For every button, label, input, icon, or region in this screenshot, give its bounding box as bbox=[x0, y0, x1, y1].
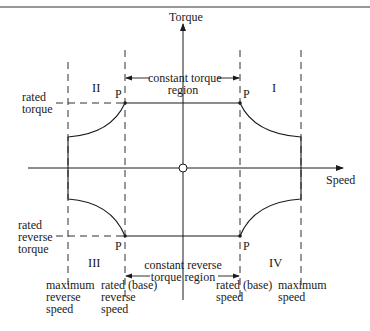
rated-torque-label-2: torque bbox=[22, 103, 53, 116]
quadrant-ii: II bbox=[92, 82, 100, 95]
base-speed-label-2: speed bbox=[216, 291, 243, 304]
quadrant-iv: IV bbox=[269, 257, 282, 270]
origin-circle bbox=[179, 164, 187, 172]
rated-reverse-label-3: torque bbox=[18, 243, 49, 256]
point-p-i: P bbox=[243, 88, 250, 101]
point-p-iv: P bbox=[243, 240, 250, 253]
max-reverse-label-3: speed bbox=[46, 303, 73, 316]
max-speed-label-2: speed bbox=[278, 291, 305, 304]
speed-axis-label: Speed bbox=[326, 174, 355, 187]
base-reverse-label-3: speed bbox=[101, 303, 128, 316]
constant-torque-label-2: region bbox=[148, 84, 218, 97]
quadrant-i: I bbox=[272, 82, 276, 95]
torque-axis-label: Torque bbox=[169, 11, 203, 24]
point-p-ii: P bbox=[115, 88, 122, 101]
quadrant-iii: III bbox=[88, 257, 101, 270]
point-p-iii: P bbox=[115, 240, 122, 253]
